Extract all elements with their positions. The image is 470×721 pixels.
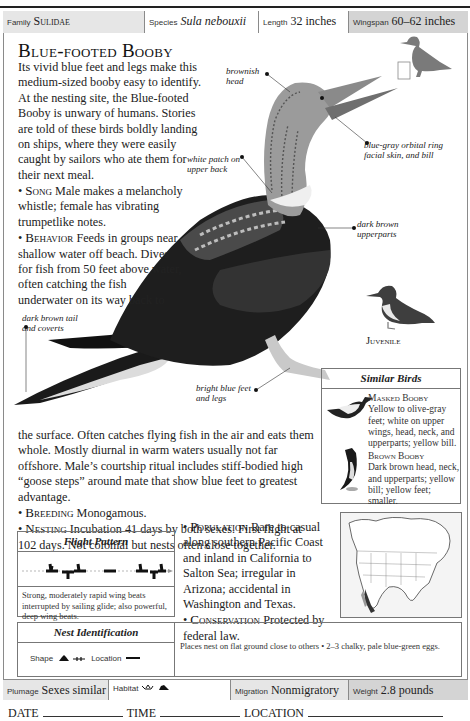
log-date-label: DATE [8,706,39,721]
nest-shape-location-row: Shape Location [18,643,174,663]
length-cell: Length 32 inches [259,11,349,33]
flight-pattern-box: Flight Pattern Strong, moderately rapid … [17,531,175,617]
similar-bird-text: Dark brown head, neck, and upperparts; y… [368,462,459,506]
log-date-field[interactable] [43,707,123,717]
intro-paragraph: Its vivid blue feet and legs make this m… [18,60,203,183]
habitat-shore-icon [141,683,171,691]
annotation-tail: dark brown tail and coverts [22,313,82,333]
range-map [340,512,462,618]
annotation-feet: bright blue feet and legs [196,383,258,403]
juvenile-label: Juvenile [366,335,400,346]
migration-label: Migration [235,687,268,696]
song-entry: • Song Male makes a melancholy whistle; … [18,183,183,230]
log-location-field[interactable] [308,707,443,717]
north-america-map-icon [341,513,461,617]
annotation-dot [254,388,258,392]
song-behavior-section: • Song Male makes a melancholy whistle; … [18,183,183,308]
similar-bird-brown-booby: Brown Booby Dark brown head, neck, and u… [368,451,460,507]
family-value: Sulidae [34,14,70,29]
species-label: Species [149,18,177,27]
length-label: Length [263,18,287,27]
annotation-upperparts: dark brown upperparts [357,219,417,239]
observation-log-line: DATE TIME LOCATION [8,706,468,721]
similar-bird-text: Yellow to olive-gray feet; white on uppe… [368,404,456,448]
species-value: Sula nebouxii [180,14,246,29]
nest-location-label: Location [91,654,121,663]
plumage-value: Sexes similar [42,683,106,698]
annotation-dot [265,72,269,76]
nest-identification-box: Nest Identification Shape Location Place… [17,622,462,677]
flight-pattern-diagram [18,552,174,587]
breeding-heading: Breeding [25,505,73,520]
annotation-white-patch: white patch on upper back [187,154,245,174]
wingspan-value: 60–62 inches [392,14,456,29]
population-entry: • Population Rare to casual along southe… [183,519,328,612]
similar-birds-box: Similar Birds Masked Booby Yellow to oli… [321,368,461,504]
nest-shape-label: Shape [30,654,53,663]
annotation-dot [365,141,369,145]
nest-identification-text: Places nest on flat ground close to othe… [175,623,461,676]
family-label: Family [7,18,31,27]
annotation-brownish-head: brownish head [226,66,268,86]
flight-silhouettes-icon [18,552,174,587]
species-footer-bar: Plumage Sexes similar Habitat Migration … [3,679,468,700]
habitat-label: Habitat [113,684,138,693]
wingspan-label: Wingspan [353,18,389,27]
family-cell: Family Sulidae [3,11,145,33]
habitat-cell: Habitat [109,680,231,700]
similar-bird-name: Masked Booby [368,393,428,403]
breeding-text: Monogamous. [77,506,147,520]
behavior-heading: Behavior [25,230,73,245]
weight-label: Weight [353,687,378,696]
page-top-rule [0,6,470,8]
annotation-dot [352,226,356,230]
behavior-entry: • Behavior Feeds in groups near shallow … [18,230,183,308]
weight-value: 2.8 pounds [381,683,434,698]
page-title: Blue-footed Booby [18,40,173,62]
song-heading: Song [25,183,52,198]
flight-pattern-text: Strong, moderately rapid wing beats inte… [18,587,174,625]
migration-value: Nonmigratory [271,683,339,698]
annotation-bill: blue-gray orbital ring facial skin, and … [364,140,444,160]
nest-location-ground-icon [126,657,140,659]
similar-bird-masked-booby: Masked Booby Yellow to olive-gray feet; … [368,393,460,449]
log-time-field[interactable] [160,707,240,717]
nest-shape-icon [58,653,86,663]
species-header-bar: Family Sulidae Species Sula nebouxii Len… [3,11,468,33]
migration-cell: Migration Nonmigratory [231,680,349,700]
annotation-dot [24,325,28,329]
nest-identification-left: Nest Identification Shape Location [18,623,175,676]
length-value: 32 inches [290,14,336,29]
similar-bird-name: Brown Booby [368,451,424,461]
wingspan-cell: Wingspan 60–62 inches [349,11,468,33]
log-time-label: TIME [127,706,156,721]
population-heading: Population [190,519,248,534]
similar-birds-title: Similar Birds [322,369,460,389]
weight-cell: Weight 2.8 pounds [349,680,468,700]
log-location-label: LOCATION [244,706,304,721]
annotation-dot [240,155,244,159]
flight-pattern-title: Flight Pattern [18,532,174,552]
plumage-label: Plumage [7,687,39,696]
nest-identification-title: Nest Identification [18,623,174,643]
species-cell: Species Sula nebouxii [145,11,259,33]
behavior-continued-text: the surface. Often catches flying fish i… [18,428,318,505]
plumage-cell: Plumage Sexes similar [3,680,109,700]
